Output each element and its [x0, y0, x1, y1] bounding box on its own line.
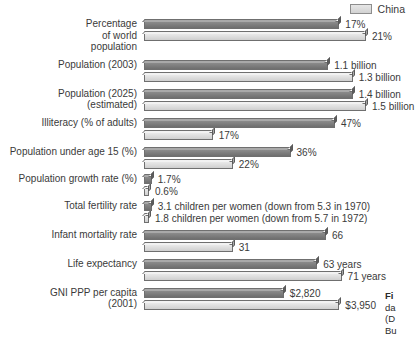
bar-track: 17% — [141, 130, 411, 141]
caption-line-3: (D — [385, 313, 419, 325]
chart-row: Illiteracy (% of adults)47%17% — [0, 117, 411, 142]
bar-china — [144, 302, 339, 310]
bar-india — [144, 261, 317, 269]
bar-value-label: $2,820 — [290, 288, 321, 299]
bar-track: 1.7% — [141, 174, 411, 185]
bar-china — [144, 74, 353, 82]
bar-value-label: 47% — [341, 118, 361, 129]
chart-row: Population (2025) (estimated)1.4 billion… — [0, 88, 411, 113]
bar-value-label: 71 years — [348, 271, 386, 282]
bar-value-label: 31 — [239, 242, 250, 253]
bar-value-label: 1.5 billion — [372, 101, 414, 112]
row-label: Total fertility rate — [0, 200, 141, 212]
row-bars: 3.1 children per women (down from 5.3 in… — [141, 200, 411, 225]
legend-label-china: China — [378, 4, 405, 15]
bar-track: 22% — [141, 159, 411, 170]
bar-china — [144, 132, 213, 140]
bar-value-label: 66 — [332, 230, 343, 241]
caption-line-4: Bu — [385, 325, 419, 337]
bar-value-label: 0.6% — [155, 186, 178, 197]
legend-swatch-china — [350, 4, 372, 14]
bar-value-label: 21% — [372, 31, 392, 42]
caption-line-1: Fi — [385, 290, 419, 302]
bar-value-label: $3,950 — [345, 300, 376, 311]
chart-row: Population under age 15 (%)36%22% — [0, 146, 411, 171]
bar-track: 63 years — [141, 259, 411, 270]
bar-china — [144, 161, 233, 169]
bar-china — [144, 188, 149, 196]
caption-figure-number: Fi — [385, 290, 393, 301]
row-label: Population growth rate (%) — [0, 173, 141, 185]
bar-value-label: 17% — [345, 19, 365, 30]
chart-rows: Percentage of world population17%21%Popu… — [0, 18, 411, 312]
bar-india — [144, 290, 284, 298]
row-bars: 47%17% — [141, 117, 411, 142]
bar-value-label: 36% — [297, 147, 317, 158]
bar-value-label: 17% — [219, 130, 239, 141]
row-label: Population (2003) — [0, 59, 141, 71]
row-bars: $2,820$3,950 — [141, 287, 411, 312]
bar-india — [144, 149, 291, 157]
bar-track: 1.1 billion — [141, 60, 411, 71]
bar-value-label: 3.1 children per women (down from 5.3 in… — [158, 201, 370, 212]
bar-value-label: 1.8 children per women (down from 5.7 in… — [155, 213, 367, 224]
bar-track: 71 years — [141, 271, 411, 282]
bar-value-label: 1.1 billion — [334, 60, 376, 71]
bar-china — [144, 273, 342, 281]
bar-china — [144, 215, 149, 223]
bar-track: $3,950 — [141, 300, 411, 311]
bar-india — [144, 21, 339, 29]
row-label: Life expectancy — [0, 258, 141, 270]
bar-track: 1.4 billion — [141, 89, 411, 100]
bar-value-label: 22% — [239, 159, 259, 170]
bar-track: 17% — [141, 19, 411, 30]
row-label: Population under age 15 (%) — [0, 146, 141, 158]
bar-value-label: 1.3 billion — [359, 72, 401, 83]
bar-india — [144, 62, 328, 70]
bar-track: 3.1 children per women (down from 5.3 in… — [141, 201, 411, 212]
bar-track: 1.3 billion — [141, 72, 411, 83]
chart-row: Infant mortality rate6631 — [0, 229, 411, 254]
row-bars: 1.7%0.6% — [141, 173, 411, 198]
chart-row: Percentage of world population17%21% — [0, 18, 411, 53]
bar-track: 1.8 children per women (down from 5.7 in… — [141, 213, 411, 224]
chart-row: GNI PPP per capita (2001)$2,820$3,950 — [0, 287, 411, 312]
chart-legend: China — [0, 2, 405, 16]
bar-china — [144, 103, 366, 111]
row-bars: 1.1 billion1.3 billion — [141, 59, 411, 84]
chart-row: Life expectancy63 years71 years — [0, 258, 411, 283]
row-bars: 36%22% — [141, 146, 411, 171]
row-bars: 6631 — [141, 229, 411, 254]
bar-track: 31 — [141, 242, 411, 253]
bar-track: 47% — [141, 118, 411, 129]
bar-value-label: 1.7% — [158, 174, 181, 185]
row-bars: 63 years71 years — [141, 258, 411, 283]
row-bars: 1.4 billion1.5 billion — [141, 88, 411, 113]
bar-track: $2,820 — [141, 288, 411, 299]
bar-track: 1.5 billion — [141, 101, 411, 112]
row-label: Percentage of world population — [0, 18, 141, 53]
bar-track: 66 — [141, 230, 411, 241]
row-label: Illiteracy (% of adults) — [0, 117, 141, 129]
chart-row: Population (2003)1.1 billion1.3 billion — [0, 59, 411, 84]
bar-india — [144, 91, 353, 99]
bar-track: 0.6% — [141, 186, 411, 197]
bar-india — [144, 120, 335, 128]
chart-row: Population growth rate (%)1.7%0.6% — [0, 173, 411, 198]
bar-china — [144, 244, 233, 252]
row-label: Population (2025) (estimated) — [0, 88, 141, 111]
bar-china — [144, 33, 366, 41]
bar-track: 36% — [141, 147, 411, 158]
bar-india — [144, 232, 326, 240]
row-bars: 17%21% — [141, 18, 411, 43]
figure-caption: Fi da (D Bu — [385, 290, 419, 336]
row-label: GNI PPP per capita (2001) — [0, 287, 141, 310]
bar-value-label: 1.4 billion — [359, 89, 401, 100]
row-label: Infant mortality rate — [0, 229, 141, 241]
bar-track: 21% — [141, 31, 411, 42]
chart-row: Total fertility rate3.1 children per wom… — [0, 200, 411, 225]
caption-line-2: da — [385, 302, 419, 314]
